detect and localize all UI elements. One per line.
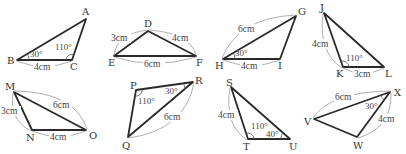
vertex-label-t: T: [243, 141, 250, 152]
side-label-hi: 4cm: [241, 61, 258, 71]
angle-label-h: 30°: [235, 48, 248, 58]
triangle-vwx: 6cm 4cm 30° V W X: [303, 87, 402, 151]
vertex-label-i: I: [278, 60, 282, 71]
triangle-pqr: 6cm 110° 30° P Q R: [122, 75, 203, 151]
side-label-mn: 3cm: [1, 106, 18, 116]
triangle-ghi-outline: [223, 16, 296, 59]
vertex-label-q: Q: [122, 140, 130, 151]
triangle-stu-outline: [231, 87, 290, 139]
vertex-label-u: U: [289, 141, 297, 152]
angle-arc-x: [381, 95, 384, 100]
side-label-qr: 6cm: [164, 112, 181, 122]
triangle-jkl: 4cm 3cm 110° J K L: [312, 2, 392, 79]
side-label-gh: 6cm: [238, 24, 255, 34]
vertex-label-j: J: [319, 2, 324, 13]
vertex-label-p: P: [130, 80, 137, 91]
vertex-label-g: G: [298, 6, 306, 17]
vertex-label-m: M: [5, 81, 15, 92]
side-label-st: 4cm: [218, 110, 235, 120]
vertex-label-v: V: [303, 116, 312, 127]
vertex-label-x: X: [394, 87, 402, 98]
side-label-de: 3cm: [111, 33, 128, 43]
vertex-label-a: A: [81, 6, 90, 17]
vertex-label-l: L: [385, 68, 392, 79]
side-label-wx: 4cm: [378, 114, 395, 124]
triangle-def: 3cm 4cm 6cm D E F: [108, 18, 203, 69]
vertex-label-d: D: [144, 18, 152, 29]
vertex-label-b: B: [7, 55, 14, 66]
triangle-stu: 4cm 110° 40° S T U: [218, 77, 297, 152]
angle-label-k: 110°: [346, 53, 363, 63]
triangles-figure: 4cm 30° 110° A B C 3cm 4cm 6cm D E F 6cm…: [0, 0, 406, 154]
triangle-ghi: 6cm 4cm 30° G H I: [215, 6, 306, 71]
dimension-arc-gh: [222, 15, 295, 58]
angle-label-u: 40°: [266, 129, 279, 139]
side-label-bc: 4cm: [34, 62, 51, 72]
side-label-ef: 6cm: [144, 59, 161, 69]
vertex-label-r: R: [195, 75, 203, 86]
dimension-arc-qr: [129, 83, 194, 138]
vertex-label-c: C: [70, 61, 78, 72]
side-label-kl: 3cm: [354, 69, 371, 79]
vertex-label-w: W: [353, 140, 364, 151]
triangle-mno: 3cm 6cm 4cm M N O: [1, 81, 97, 143]
angle-label-r: 30°: [165, 86, 178, 96]
side-label-no: 4cm: [50, 132, 67, 142]
triangle-mno-outline: [14, 92, 86, 130]
vertex-label-f: F: [196, 57, 203, 68]
vertex-label-s: S: [226, 77, 233, 88]
vertex-label-o: O: [89, 130, 97, 141]
triangle-abc: 4cm 30° 110° A B C: [7, 6, 90, 72]
angle-label-c: 110°: [55, 42, 72, 52]
vertex-label-h: H: [215, 60, 224, 71]
dimension-arc-mo: [15, 91, 87, 129]
side-label-vx: 6cm: [335, 92, 352, 102]
triangle-abc-outline: [17, 19, 86, 60]
vertex-label-e: E: [108, 57, 115, 68]
side-label-jk: 4cm: [312, 39, 329, 49]
vertex-label-n: N: [26, 132, 35, 143]
vertex-label-k: K: [336, 68, 344, 79]
angle-arc-u: [281, 133, 283, 140]
angle-label-p: 110°: [138, 96, 155, 106]
side-label-mo: 6cm: [53, 100, 70, 110]
angle-label-x: 30°: [365, 101, 378, 111]
side-label-df: 4cm: [172, 33, 189, 43]
angle-label-b: 30°: [30, 49, 43, 59]
